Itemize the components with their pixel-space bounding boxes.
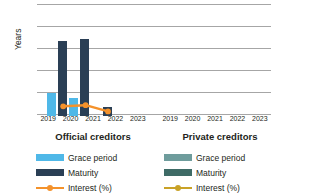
interest-line-swatch-icon [164,183,192,192]
legend-item-private-grace: Grace period [152,150,292,165]
legend-swatch-wrap [152,183,192,192]
legend-label-grace: Grace period [196,153,245,163]
panel-title-official: Official creditors [25,131,161,145]
xtick-official-2020: 2020 [59,115,81,125]
interest-marker-2019 [60,103,66,109]
grace-swatch-icon [36,154,64,161]
xaxis-private: 2019 2020 2021 2022 2023 [159,115,271,125]
legend-item-official-interest: Interest (%) [24,180,164,195]
bar-group-private-2019 [159,4,181,116]
legend-swatch-wrap [24,169,64,176]
bar-group-private-2023 [249,4,271,116]
xtick-official-2019: 2019 [37,115,59,125]
xtick-private-2019: 2019 [159,115,181,125]
legend-swatch-wrap [24,183,64,192]
xtick-private-2023: 2023 [249,115,271,125]
interest-line-official [37,4,149,116]
bar-group-private-2022 [226,4,248,116]
plot-area: 50 40 30 20 10 0 15 12 9 6 3 0 Years Int… [37,4,271,116]
grace-swatch-icon [164,154,192,161]
interest-marker-2020 [83,102,89,108]
maturity-swatch-icon [36,169,64,176]
bar-group-private-2021 [204,4,226,116]
xaxis-official: 2019 2020 2021 2022 2023 [37,115,149,125]
legend-label-maturity: Maturity [196,168,226,178]
legend-private: Grace period Maturity Interest (%) [152,150,292,195]
legend-official: Grace period Maturity Interest (%) [24,150,164,195]
legend-label-maturity: Maturity [68,168,98,178]
legend-item-private-interest: Interest (%) [152,180,292,195]
interest-marker-2021 [105,109,111,115]
legend-swatch-wrap [24,154,64,161]
chart-figure: 50 40 30 20 10 0 15 12 9 6 3 0 Years Int… [0,0,313,196]
xtick-private-2021: 2021 [204,115,226,125]
panel-title-private: Private creditors [152,131,288,145]
interest-line-swatch-icon [36,183,64,192]
bar-groups-private [159,4,271,116]
maturity-swatch-icon [164,169,192,176]
xtick-official-2021: 2021 [82,115,104,125]
legend-swatch-wrap [152,154,192,161]
xtick-official-2022: 2022 [104,115,126,125]
legend-item-private-maturity: Maturity [152,165,292,180]
xtick-official-2023: 2023 [127,115,149,125]
xtick-private-2022: 2022 [226,115,248,125]
legend-label-interest: Interest (%) [196,183,240,193]
panel-private-creditors [159,4,271,116]
bar-group-private-2020 [181,4,203,116]
legend-label-interest: Interest (%) [68,183,112,193]
xtick-private-2020: 2020 [181,115,203,125]
legend-swatch-wrap [152,169,192,176]
legend-item-official-grace: Grace period [24,150,164,165]
left-axis-title: Years [13,29,23,50]
legend-item-official-maturity: Maturity [24,165,164,180]
panel-official-creditors [37,4,149,116]
legend-label-grace: Grace period [68,153,117,163]
